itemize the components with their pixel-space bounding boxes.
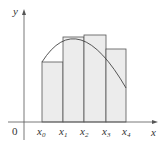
y-axis-arrow-icon: [22, 9, 26, 15]
rectangles: [42, 35, 126, 122]
rectangle-2: [63, 37, 84, 122]
y-axis-label: y: [12, 5, 18, 17]
riemann-sum-diagram: y x 0 x0 x1 x2 x3 x4: [0, 0, 166, 145]
svg-text:x0: x0: [36, 125, 46, 139]
svg-text:x1: x1: [58, 125, 67, 139]
partition-labels: x0 x1 x2 x3 x4: [36, 125, 131, 139]
svg-text:x2: x2: [79, 125, 89, 139]
rectangle-1: [42, 62, 63, 122]
x-axis-label: x: [150, 126, 156, 138]
rectangle-4: [106, 49, 126, 122]
svg-text:x4: x4: [121, 125, 131, 139]
x-axis-arrow-icon: [152, 120, 158, 124]
svg-text:x3: x3: [101, 125, 111, 139]
origin-label: 0: [12, 125, 18, 137]
